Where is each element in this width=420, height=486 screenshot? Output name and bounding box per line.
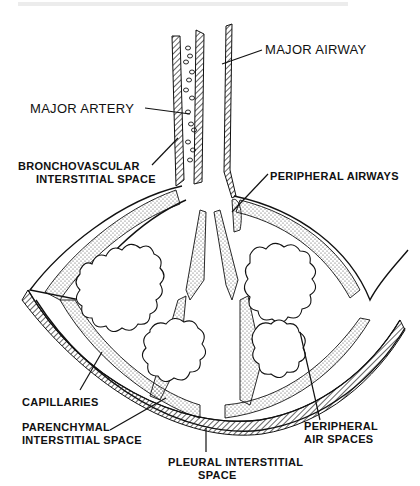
label-bronchovascular-interstitial-space: BRONCHOVASCULAR INTERSTITIAL SPACE: [18, 160, 156, 186]
label-peripheral-air-spaces: PERIPHERAL AIR SPACES: [304, 420, 378, 446]
lung-diagram: [0, 0, 420, 486]
major-airway-shape: [224, 24, 236, 198]
label-capillaries: CAPILLARIES: [22, 396, 99, 409]
label-parenchymal-interstitial-space: PARENCHYMAL INTERSTITIAL SPACE: [22, 421, 142, 447]
label-pleural-interstitial-space: PLEURAL INTERSTITIAL SPACE: [168, 456, 303, 482]
label-peripheral-airways: PERIPHERAL AIRWAYS: [270, 170, 399, 183]
label-major-airway: MAJOR AIRWAY: [265, 42, 367, 57]
label-major-artery: MAJOR ARTERY: [30, 101, 134, 116]
major-artery-shape: [172, 30, 204, 186]
